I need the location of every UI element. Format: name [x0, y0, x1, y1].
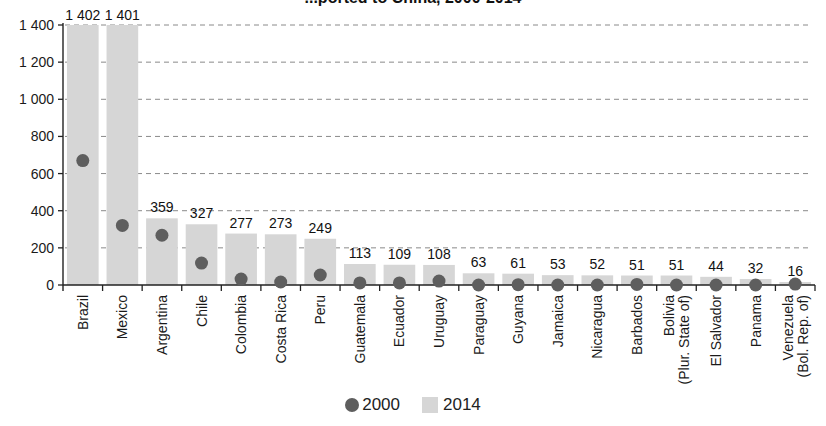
data-label: 273 — [269, 215, 293, 231]
x-tick-label: Argentina — [154, 295, 170, 355]
dot-2000 — [512, 278, 525, 291]
data-label: 63 — [471, 254, 487, 270]
data-label: 51 — [669, 257, 685, 273]
x-tick-label: Costa Rica — [273, 295, 289, 364]
y-tick-label: 1 000 — [19, 91, 54, 107]
x-tick-label: Guatemala — [352, 295, 368, 364]
circle-marker-icon — [345, 398, 359, 412]
x-tick-label: Jamaica — [550, 295, 566, 347]
legend-label-2014: 2014 — [443, 395, 481, 415]
x-tick-label: Uruguay — [431, 295, 447, 348]
dot-2000 — [591, 279, 604, 292]
y-tick-label: 400 — [31, 203, 55, 219]
y-tick-label: 600 — [31, 166, 55, 182]
data-label: 61 — [510, 255, 526, 271]
y-tick-label: 1 400 — [19, 17, 54, 33]
x-tick-label: Mexico — [114, 295, 130, 340]
dot-2000 — [393, 276, 406, 289]
dot-2000 — [314, 268, 327, 281]
x-tick-label: Venezuela(Bol. Rep. of) — [780, 295, 811, 378]
x-tick-label: Ecuador — [391, 295, 407, 347]
dot-2000 — [472, 279, 485, 292]
x-tick-label: Peru — [312, 295, 328, 325]
legend-item-2000: 2000 — [345, 395, 400, 415]
bar-chart: 1 4021 401359327277273249113109108636153… — [0, 0, 826, 392]
dot-2000 — [274, 276, 287, 289]
data-label: 52 — [590, 256, 606, 272]
data-label: 359 — [150, 199, 174, 215]
dot-2000 — [195, 257, 208, 270]
legend-item-2014: 2014 — [422, 395, 481, 415]
dot-2000 — [551, 279, 564, 292]
x-tick-label: Chile — [194, 295, 210, 327]
legend-label-2000: 2000 — [362, 395, 400, 415]
dot-2000 — [353, 276, 366, 289]
bar-2014 — [186, 224, 218, 285]
data-label: 16 — [787, 263, 803, 279]
dot-2000 — [789, 278, 802, 291]
data-label: 51 — [629, 257, 645, 273]
data-label: 277 — [229, 215, 253, 231]
bar-2014 — [107, 25, 139, 285]
dot-2000 — [76, 154, 89, 167]
data-label: 108 — [427, 246, 451, 262]
dot-2000 — [433, 275, 446, 288]
dot-2000 — [749, 279, 762, 292]
x-axis-labels: BrazilMexicoArgentinaChileColombiaCosta … — [75, 295, 811, 385]
x-tick-label: Guyana — [510, 295, 526, 344]
dot-2000 — [670, 279, 683, 292]
x-tick-label: Bolivia(Plur. State of) — [661, 295, 692, 385]
x-tick-label: Nicaragua — [589, 295, 605, 359]
data-label: 32 — [748, 260, 764, 276]
x-tick-label: Colombia — [233, 295, 249, 354]
y-axis-labels: 02004006008001 0001 2001 400 — [19, 17, 54, 293]
data-label: 44 — [708, 258, 724, 274]
bar-2014 — [146, 218, 178, 285]
data-label: 113 — [349, 245, 372, 261]
x-tick-label: Brazil — [75, 295, 91, 330]
y-tick-label: 200 — [31, 240, 55, 256]
y-tick-label: 1 200 — [19, 54, 54, 70]
data-label: 1 402 — [65, 7, 100, 23]
dot-2000 — [710, 279, 723, 292]
dot-2000 — [155, 229, 168, 242]
data-label: 109 — [388, 246, 412, 262]
y-tick-label: 0 — [46, 277, 54, 293]
dot-2000 — [116, 219, 129, 232]
dot-2000 — [235, 273, 248, 286]
y-tick-label: 800 — [31, 128, 55, 144]
x-tick-label: Panama — [748, 295, 764, 347]
x-tick-label: Barbados — [629, 295, 645, 355]
gridlines — [65, 25, 812, 248]
data-label: 327 — [190, 205, 214, 221]
square-marker-icon — [422, 397, 438, 413]
dot-2000 — [630, 278, 643, 291]
x-tick-label: El Salvador — [708, 295, 724, 367]
data-label: 53 — [550, 256, 566, 272]
data-label: 249 — [309, 220, 333, 236]
data-label: 1 401 — [105, 7, 140, 23]
x-tick-label: Paraguay — [471, 295, 487, 355]
legend: 2000 2014 — [0, 395, 826, 415]
